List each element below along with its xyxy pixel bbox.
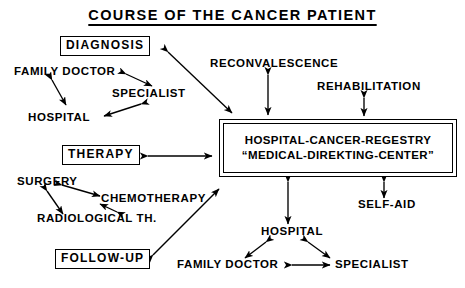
node-specialist-top[interactable]: SPECIALIST xyxy=(112,88,186,100)
diagram-canvas: COURSE OF THE CANCER PATIENT DIAGNOSIS T… xyxy=(0,0,465,288)
node-chemotherapy[interactable]: CHEMOTHERAPY xyxy=(101,193,206,205)
stage-label-follow-up: FOLLOW-UP xyxy=(61,251,144,265)
node-radiological-th[interactable]: RADIOLOGICAL TH. xyxy=(37,213,157,225)
stage-box-follow-up[interactable]: FOLLOW-UP xyxy=(55,249,150,269)
page-title: COURSE OF THE CANCER PATIENT xyxy=(0,8,465,23)
edge-familydoctor-hospital-top xyxy=(52,80,66,105)
node-family-doctor-bottom[interactable]: FAMILY DOCTOR xyxy=(177,259,279,271)
edge-familydoctor-specialist-top xyxy=(126,74,152,86)
registry-line-1: HOSPITAL-CANCER-REGESTRY xyxy=(245,135,432,147)
edge-surgery-radiological xyxy=(47,191,63,214)
edge-hospital-specialist-bottom xyxy=(308,242,330,258)
node-specialist-bottom[interactable]: SPECIALIST xyxy=(335,259,409,271)
stage-label-diagnosis: DIAGNOSIS xyxy=(66,38,144,52)
edge-chemotherapy-radiological xyxy=(100,204,117,212)
registry-box-inner: HOSPITAL-CANCER-REGESTRY “MEDICAL-DIREKT… xyxy=(223,123,453,173)
node-hospital-top[interactable]: HOSPITAL xyxy=(28,112,90,124)
node-family-doctor-top[interactable]: FAMILY DOCTOR xyxy=(14,66,116,78)
edge-hospital-familydoctor-bottom xyxy=(245,242,266,258)
node-self-aid[interactable]: SELF-AID xyxy=(358,199,416,211)
node-surgery[interactable]: SURGERY xyxy=(17,176,78,188)
edge-specialist-hospital-top xyxy=(104,104,141,116)
registry-line-2: “MEDICAL-DIREKTING-CENTER” xyxy=(242,150,434,162)
node-rehabilitation[interactable]: REHABILITATION xyxy=(317,81,421,93)
registry-box[interactable]: HOSPITAL-CANCER-REGESTRY “MEDICAL-DIREKT… xyxy=(219,119,457,177)
stage-box-therapy[interactable]: THERAPY xyxy=(62,145,140,165)
stage-label-therapy: THERAPY xyxy=(68,147,134,161)
stage-box-diagnosis[interactable]: DIAGNOSIS xyxy=(60,36,150,56)
node-hospital-bottom[interactable]: HOSPITAL xyxy=(261,226,323,238)
node-reconvalescence[interactable]: RECONVALESCENCE xyxy=(210,58,338,70)
